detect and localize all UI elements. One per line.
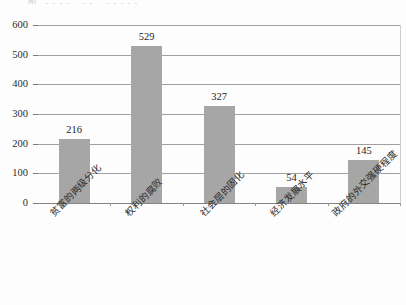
x-axis-minor-tick — [110, 203, 111, 206]
y-tick-mark — [33, 25, 38, 26]
x-axis-minor-tick — [255, 203, 256, 206]
gridline — [38, 25, 400, 26]
gridline — [38, 84, 400, 85]
bar-value-label: 327 — [195, 92, 243, 103]
y-axis-tick-label: 300 — [0, 109, 28, 120]
gridline — [38, 55, 400, 56]
y-tick-mark — [33, 84, 38, 85]
x-axis-minor-tick — [328, 203, 329, 206]
y-tick-mark — [33, 55, 38, 56]
bar-value-label: 529 — [123, 32, 171, 43]
y-axis-tick-label: 500 — [0, 49, 28, 60]
y-axis-tick-label: 100 — [0, 168, 28, 179]
y-axis-tick-label: 200 — [0, 138, 28, 149]
y-axis-tick-label: 600 — [0, 20, 28, 31]
y-axis-tick-label: 400 — [0, 79, 28, 90]
y-tick-mark — [33, 203, 38, 204]
chart-title-clipped: 图 ．．．． ．． ．．．．． — [28, 0, 278, 4]
bar-chart: 图 ．．．． ．． ．．．．． 0100200300400500600216贫富… — [0, 0, 406, 305]
y-tick-mark — [33, 173, 38, 174]
x-axis-minor-tick — [183, 203, 184, 206]
bar-value-label: 216 — [50, 125, 98, 136]
x-axis-category-label: 政府的外交强硬程度 — [328, 147, 400, 219]
plot-right-edge — [400, 25, 401, 203]
plot-area: 0100200300400500600216贫富的两级分化529权利的腐败327… — [38, 25, 400, 203]
y-axis-tick-label: 0 — [0, 198, 28, 209]
y-tick-mark — [33, 144, 38, 145]
y-tick-mark — [33, 114, 38, 115]
x-axis-minor-tick — [400, 203, 401, 206]
